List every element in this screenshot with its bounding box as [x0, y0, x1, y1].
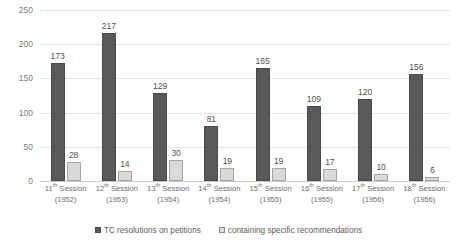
bar-value-label: 165 [250, 57, 276, 66]
x-category-label: 18th Session(1956) [393, 183, 456, 205]
bar [51, 63, 65, 181]
bar-chart: 050100150200250 173282171412930811916519… [0, 0, 457, 241]
session-text: 11th Session [45, 184, 87, 193]
chart-legend: TC resolutions on petitionscontaining sp… [0, 222, 457, 238]
bar-value-label: 81 [198, 115, 224, 124]
bar-value-label: 19 [214, 157, 240, 166]
y-tick-label-250: 250 [0, 6, 33, 15]
y-tick-label-150: 150 [0, 74, 33, 83]
session-text: 16th Session [301, 184, 343, 193]
y-tick-label-100: 100 [0, 109, 33, 118]
gridline-0 [40, 181, 450, 182]
session-text: 17th Session [352, 184, 394, 193]
legend-swatch-dark-icon [95, 227, 101, 233]
session-text: 13th Session [147, 184, 189, 193]
bar [220, 168, 234, 181]
bar-value-label: 19 [266, 157, 292, 166]
bar-group: 16519 [245, 10, 296, 181]
bar-group: 12010 [348, 10, 399, 181]
bar-value-label: 156 [403, 63, 429, 72]
legend-entry[interactable]: containing specific recommendations [219, 226, 362, 235]
legend-swatch-light-icon [219, 227, 225, 233]
bar-value-label: 109 [301, 95, 327, 104]
bar [272, 168, 286, 181]
bar [102, 33, 116, 181]
legend-label: containing specific recommendations [228, 226, 362, 235]
bar [374, 174, 388, 181]
bar [323, 169, 337, 181]
bar-value-label: 17 [317, 158, 343, 167]
bar-value-label: 129 [147, 82, 173, 91]
bar-value-label: 217 [96, 22, 122, 31]
plot-area: 17328217141293081191651910917120101566 [40, 10, 450, 181]
bar [118, 171, 132, 181]
session-text: 15th Session [250, 184, 292, 193]
bar [169, 160, 183, 181]
bar-group: 12930 [143, 10, 194, 181]
y-tick-label-0: 0 [0, 177, 33, 186]
bar-group: 1566 [399, 10, 450, 181]
bar-value-label: 10 [368, 163, 394, 172]
bar [67, 162, 81, 181]
bar-value-label: 6 [419, 166, 445, 175]
y-tick-label-200: 200 [0, 40, 33, 49]
bar-group: 17328 [40, 10, 91, 181]
bar [425, 177, 439, 181]
bar-value-label: 28 [61, 151, 87, 160]
session-text: 12th Session [96, 184, 138, 193]
bar-value-label: 14 [112, 160, 138, 169]
bar-group: 21714 [91, 10, 142, 181]
bar-group: 10917 [296, 10, 347, 181]
session-year: (1956) [393, 194, 456, 205]
bar [307, 106, 321, 181]
bar [153, 93, 167, 181]
bar [204, 126, 218, 181]
session-text: 18th Session [403, 184, 445, 193]
y-tick-label-50: 50 [0, 143, 33, 152]
bar-group: 8119 [194, 10, 245, 181]
session-text: 14th Session [198, 184, 240, 193]
bar-value-label: 30 [163, 149, 189, 158]
legend-entry[interactable]: TC resolutions on petitions [95, 226, 201, 235]
bar-value-label: 173 [45, 52, 71, 61]
x-axis-category-labels: 11th Session(1952)12th Session(1953)13th… [40, 183, 450, 213]
legend-label: TC resolutions on petitions [104, 226, 201, 235]
bar-value-label: 120 [352, 88, 378, 97]
